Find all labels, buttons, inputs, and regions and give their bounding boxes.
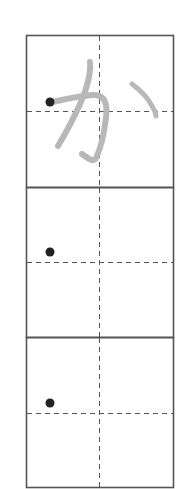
start-dot-icon xyxy=(46,399,55,408)
practice-grid xyxy=(0,0,194,489)
practice-box-1 xyxy=(27,36,174,188)
kana-practice-sheet xyxy=(0,0,194,489)
practice-box-2 xyxy=(27,188,174,338)
practice-box-3 xyxy=(27,338,174,488)
start-dot-icon xyxy=(46,98,55,107)
start-dot-icon xyxy=(46,248,55,257)
